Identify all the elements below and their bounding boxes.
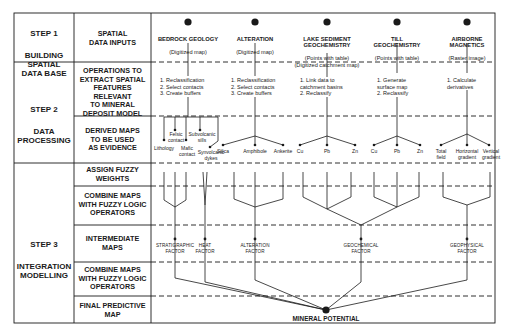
input-lake-sediment-geochemistry: LAKE SEDIMENT GEOCHEMISTRY (Points with … (282, 29, 372, 69)
factor-geophysical: GEOPHYSICAL FACTOR (445, 243, 489, 254)
factor-alteration: ALTERATION FACTOR (235, 243, 275, 254)
operations-lake: 1. Link data to catchment basins 2. Recl… (300, 77, 343, 97)
input-title: BEDROCK GEOLOGY (158, 36, 218, 42)
evidence-subvolcanic-sills: Subvolcanic sills (187, 131, 217, 143)
operations-magnetics: 1. Calculate derivatives (447, 77, 476, 90)
step-3-label: STEP 3 INTEGRATION MODELLING (14, 231, 74, 280)
input-subtitle: (Digitized map) (236, 49, 274, 55)
evidence-felsic-contact: Felsic contact (164, 131, 188, 143)
input-title: ALTERATION (237, 36, 274, 42)
row-operations: OPERATIONS TO EXTRACT SPATIAL FEATURES R… (74, 67, 151, 119)
step-number: STEP 3 (14, 240, 74, 249)
final-mineral-potential: MINERAL POTENTIAL (276, 315, 376, 322)
input-title: TILL GEOCHEMISTRY (374, 36, 421, 49)
evidence-amphibole: Amphibole (241, 148, 269, 154)
factor-stratigraphic: STRATIGRAPHIC FACTOR (152, 243, 198, 254)
evidence-vertical-gradient: Vertical gradient (479, 148, 503, 160)
evidence-till-cu: Cu (366, 148, 382, 154)
input-subtitle: (Points with table) (375, 55, 419, 61)
step-2-label: STEP 2 DATA PROCESSING (14, 96, 74, 145)
evidence-lake-pb: Pb (319, 148, 335, 154)
step-1-label: STEP 1 BUILDING SPATIAL DATA BASE (14, 20, 74, 78)
factor-geochemical: GEOCHEMICAL FACTOR (339, 243, 383, 254)
operations-geology: 1. Reclassification 2. Select contacts 3… (160, 77, 204, 97)
operations-till: 1. Generate surface map 2. Reclassify (377, 77, 408, 97)
row-combine-maps-2: COMBINE MAPS WITH FUZZY LOGIC OPERATORS (74, 266, 151, 292)
input-subtitle: (Points with table) (Digitized catchment… (295, 55, 360, 68)
input-subtitle: (Digitized map) (169, 49, 207, 55)
step-name: DATA PROCESSING (17, 127, 70, 145)
step-number: STEP 1 (14, 29, 74, 38)
evidence-lake-zn: Zn (347, 148, 363, 154)
input-airborne-magnetics: AIRBORNE MAGNETICS (Raster image) (435, 29, 499, 62)
input-title: AIRBORNE MAGNETICS (450, 36, 485, 49)
input-till-geochemistry: TILL GEOCHEMISTRY (Points with table) (362, 29, 432, 62)
row-combine-maps-1: COMBINE MAPS WITH FUZZY LOGIC OPERATORS (74, 192, 151, 218)
evidence-lithology: Lithology (150, 145, 178, 151)
evidence-mafic-contact: Mafic contact (176, 145, 198, 157)
input-bedrock-geology: BEDROCK GEOLOGY (Digitized map) (148, 29, 228, 55)
row-assign-fuzzy-weights: ASSIGN FUZZY WEIGHTS (74, 166, 151, 183)
evidence-till-zn: Zn (412, 148, 428, 154)
row-intermediate-maps: INTERMEDIATE MAPS (74, 235, 151, 252)
step-name: INTEGRATION MODELLING (17, 262, 72, 280)
factor-heat: HEAT FACTOR (193, 243, 217, 254)
evidence-total-field: Total field (431, 148, 451, 160)
row-derived-maps: DERIVED MAPS TO BE USED AS EVIDENCE (74, 127, 151, 153)
input-subtitle: (Raster image) (449, 55, 486, 61)
input-alteration: ALTERATION (Digitized map) (220, 29, 290, 55)
evidence-till-pb: Pb (389, 148, 405, 154)
operations-alteration: 1. Reclassification 2. Select contacts 3… (231, 77, 275, 97)
evidence-lake-cu: Cu (292, 148, 308, 154)
step-number: STEP 2 (14, 105, 74, 114)
step-name: BUILDING SPATIAL DATA BASE (21, 51, 66, 78)
row-spatial-data-inputs: SPATIAL DATA INPUTS (74, 30, 151, 47)
evidence-silica: Silica (213, 148, 233, 154)
input-title: LAKE SEDIMENT GEOCHEMISTRY (303, 36, 350, 49)
row-final-predictive-map: FINAL PREDICTIVE MAP (74, 302, 151, 319)
